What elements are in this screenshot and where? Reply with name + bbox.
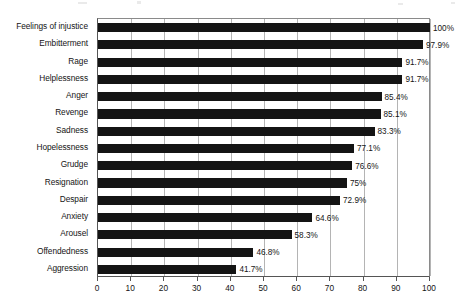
x-axis: 0102030405060708090100 xyxy=(97,277,430,307)
bar-value-label: 91.7% xyxy=(402,75,428,84)
x-tick-mark xyxy=(429,277,430,281)
category-label: Offendedness xyxy=(0,247,88,256)
category-label: Anger xyxy=(0,91,88,100)
x-tick-label: 60 xyxy=(292,283,301,293)
bar xyxy=(98,161,352,170)
x-tick-label: 100 xyxy=(422,283,436,293)
scan-artifact xyxy=(78,2,87,4)
category-label: Despair xyxy=(0,195,88,204)
bar-value-label: 91.7% xyxy=(402,58,428,67)
x-tick-label: 40 xyxy=(225,283,234,293)
bar xyxy=(98,265,236,274)
bar-value-label: 77.1% xyxy=(354,144,380,153)
x-tick-mark xyxy=(97,277,98,281)
bar-row: 97.9% xyxy=(98,40,429,49)
category-label: Sadness xyxy=(0,126,88,135)
bar xyxy=(98,248,253,257)
bar xyxy=(98,40,423,49)
category-label: Embitterment xyxy=(0,39,88,48)
x-tick-mark xyxy=(263,277,264,281)
x-tick-mark xyxy=(163,277,164,281)
bar-row: 76.6% xyxy=(98,161,429,170)
x-tick-label: 70 xyxy=(325,283,334,293)
bar-value-label: 64.6% xyxy=(312,213,338,222)
x-tick-label: 30 xyxy=(192,283,201,293)
bar xyxy=(98,75,402,84)
bar-value-label: 83.3% xyxy=(375,127,401,136)
x-tick-label: 0 xyxy=(95,283,100,293)
bar-row: 72.9% xyxy=(98,196,429,205)
bar-value-label: 72.9% xyxy=(340,196,366,205)
bar-value-label: 100% xyxy=(430,23,454,32)
bar-row: 75% xyxy=(98,178,429,187)
bar xyxy=(98,58,402,67)
x-tick-mark xyxy=(197,277,198,281)
bar-row: 91.7% xyxy=(98,58,429,67)
bar xyxy=(98,178,347,187)
category-label: Anxiety xyxy=(0,212,88,221)
bar-row: 46.8% xyxy=(98,248,429,257)
bar-value-label: 85.4% xyxy=(382,92,408,101)
bar xyxy=(98,196,340,205)
plot-area: 100%97.9%91.7%91.7%85.4%85.1%83.3%77.1%7… xyxy=(97,18,430,277)
category-label: Feelings of injustice xyxy=(0,22,88,31)
bar-value-label: 41.7% xyxy=(236,265,262,274)
bar-row: 83.3% xyxy=(98,127,429,136)
bar-row: 100% xyxy=(98,23,429,32)
category-label: Helplessness xyxy=(0,74,88,83)
bar xyxy=(98,127,375,136)
bar-row: 64.6% xyxy=(98,213,429,222)
scan-artifact xyxy=(451,2,455,4)
x-tick-label: 10 xyxy=(126,283,135,293)
category-label: Arousel xyxy=(0,229,88,238)
scan-artifact xyxy=(137,1,141,4)
category-label: Hopelessness xyxy=(0,143,88,152)
bar xyxy=(98,144,354,153)
bar-chart: Feelings of injusticeEmbittermentRageHel… xyxy=(0,0,467,308)
x-tick-label: 90 xyxy=(391,283,400,293)
bar xyxy=(98,230,292,239)
bar xyxy=(98,23,430,32)
bar-row: 77.1% xyxy=(98,144,429,153)
bar-value-label: 58.3% xyxy=(292,230,318,239)
x-tick-mark xyxy=(296,277,297,281)
gridline xyxy=(430,19,431,276)
bar-value-label: 76.6% xyxy=(352,161,378,170)
bar-value-label: 97.9% xyxy=(423,40,449,49)
category-axis: Feelings of injusticeEmbittermentRageHel… xyxy=(0,18,93,277)
bar-series: 100%97.9%91.7%91.7%85.4%85.1%83.3%77.1%7… xyxy=(98,19,429,276)
category-label: Revenge xyxy=(0,108,88,117)
bar-value-label: 75% xyxy=(347,179,366,188)
bar xyxy=(98,92,382,101)
bar-value-label: 46.8% xyxy=(253,248,279,257)
scan-artifact xyxy=(398,3,403,5)
x-tick-label: 80 xyxy=(358,283,367,293)
x-tick-mark xyxy=(130,277,131,281)
x-tick-mark xyxy=(329,277,330,281)
category-label: Aggression xyxy=(0,264,88,273)
x-tick-label: 50 xyxy=(258,283,267,293)
category-label: Rage xyxy=(0,57,88,66)
bar-row: 85.1% xyxy=(98,109,429,118)
bar-row: 41.7% xyxy=(98,265,429,274)
bar xyxy=(98,109,381,118)
bar xyxy=(98,213,312,222)
x-tick-mark xyxy=(396,277,397,281)
x-tick-mark xyxy=(230,277,231,281)
x-tick-mark xyxy=(363,277,364,281)
category-label: Resignation xyxy=(0,178,88,187)
bar-row: 58.3% xyxy=(98,230,429,239)
category-label: Grudge xyxy=(0,160,88,169)
x-tick-label: 20 xyxy=(159,283,168,293)
bar-row: 91.7% xyxy=(98,75,429,84)
bar-row: 85.4% xyxy=(98,92,429,101)
bar-value-label: 85.1% xyxy=(381,109,407,118)
